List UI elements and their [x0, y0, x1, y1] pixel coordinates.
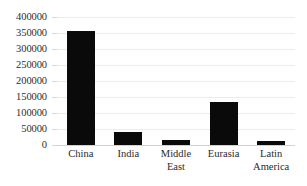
bar-china[interactable]	[67, 31, 95, 145]
y-tick-label: 300000	[0, 44, 47, 54]
gridline-0	[57, 145, 295, 146]
bar-chart: 0500001000001500002000002500003000003500…	[0, 0, 307, 186]
y-tick-label: 50000	[0, 124, 47, 134]
y-tick-mark-0	[52, 145, 57, 146]
bar-middle-east[interactable]	[162, 140, 190, 145]
y-tick-label: 200000	[0, 76, 47, 86]
plot-area	[57, 17, 295, 145]
y-axis: 0500001000001500002000002500003000003500…	[0, 0, 52, 186]
bars-group	[57, 17, 295, 145]
x-category-label-latin-america: Latin America	[247, 148, 295, 173]
y-tick-label: 0	[0, 140, 47, 150]
x-axis: ChinaIndiaMiddle EastEurasiaLatin Americ…	[57, 148, 295, 186]
x-category-label-eurasia: Eurasia	[200, 148, 248, 161]
bar-eurasia[interactable]	[210, 102, 238, 145]
y-tick-label: 150000	[0, 92, 47, 102]
bar-india[interactable]	[114, 132, 142, 145]
bar-latin-america[interactable]	[257, 141, 285, 145]
y-tick-label: 350000	[0, 28, 47, 38]
x-category-label-india: India	[105, 148, 153, 161]
y-tick-label: 250000	[0, 60, 47, 70]
x-category-label-middle-east: Middle East	[152, 148, 200, 173]
y-tick-label: 400000	[0, 12, 47, 22]
y-tick-label: 100000	[0, 108, 47, 118]
x-category-label-china: China	[57, 148, 105, 161]
